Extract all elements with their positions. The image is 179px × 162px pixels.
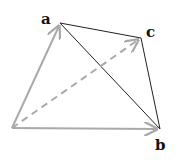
edge-c-b bbox=[141, 38, 160, 129]
vector-c-dashed bbox=[12, 40, 138, 128]
label-c: c bbox=[146, 23, 155, 41]
vector-b bbox=[12, 128, 157, 129]
vector-diagram: a c b bbox=[0, 0, 179, 162]
label-a: a bbox=[41, 10, 51, 28]
label-b: b bbox=[155, 136, 166, 154]
edge-a-b bbox=[60, 23, 160, 129]
